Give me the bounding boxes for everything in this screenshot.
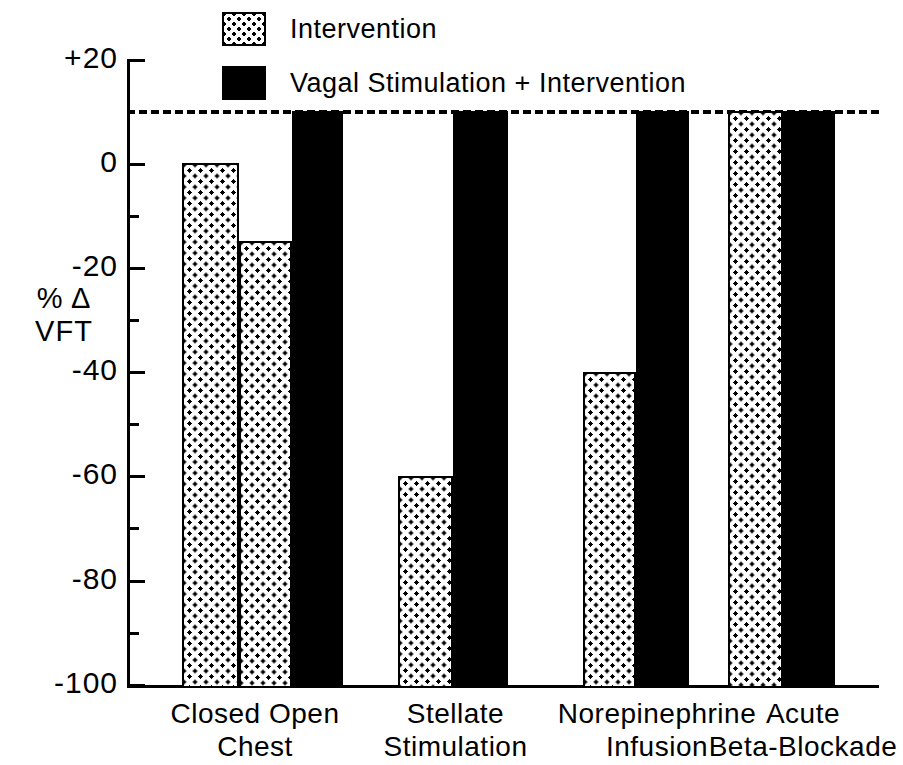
y-axis-title: % Δ VFT: [6, 282, 122, 349]
x-group-line2: Chest: [140, 730, 370, 763]
bar-vagal-open-chest: [292, 111, 343, 688]
y-label-m100: -100: [8, 668, 118, 698]
y-label-m60: -60: [8, 459, 118, 489]
y-axis-title-line2: VFT: [35, 315, 93, 347]
y-tick-m20: [127, 267, 145, 270]
bar-intervention-norepinephrine-infusion: [583, 372, 636, 688]
y-label-m20: -20: [8, 251, 118, 281]
y-minor-tick-m90: [127, 632, 139, 635]
y-tick-m80: [127, 580, 145, 583]
bar-vagal-acute-beta-blockade: [783, 111, 835, 688]
y-label-m40: -40: [8, 355, 118, 385]
y-minor-tick-m50: [127, 423, 139, 426]
x-group-line1: Acute: [766, 698, 840, 729]
bar-intervention-closed-chest: [182, 163, 239, 688]
y-tick-m60: [127, 475, 145, 478]
bar-intervention-open-chest: [239, 241, 292, 688]
x-group-label-stellate-stimulation: Stellate Stimulation: [348, 697, 563, 763]
x-group-line2: Beta-Blockade: [705, 730, 901, 763]
y-minor-tick-m70: [127, 527, 139, 530]
y-label-0: 0: [8, 147, 118, 177]
y-tick-0: [127, 163, 145, 166]
y-label-m80: -80: [8, 564, 118, 594]
plot-area: +20 0 -20 -40 -60 -80 -100 % Δ VFT Close…: [0, 0, 903, 765]
y-label-20: +20: [8, 43, 118, 73]
bar-vagal-stellate-stimulation: [453, 111, 508, 688]
chart-canvas: Intervention Vagal Stimulation + Interve…: [0, 0, 903, 765]
x-group-line2: Stimulation: [348, 730, 563, 763]
y-axis-title-line1: % Δ: [37, 282, 92, 314]
x-group-label-closed-open-chest: Closed Open Chest: [140, 697, 370, 763]
y-minor-tick-m30: [127, 319, 139, 322]
x-group-line1: Closed Open: [171, 698, 340, 729]
bar-intervention-stellate-stimulation: [398, 476, 453, 688]
y-tick-m40: [127, 371, 145, 374]
y-tick-m100: [127, 684, 145, 687]
bar-vagal-norepinephrine-infusion: [636, 111, 689, 688]
y-tick-20: [127, 59, 145, 62]
x-group-line1: Stellate: [407, 698, 504, 729]
x-group-label-acute-beta-blockade: Acute Beta-Blockade: [705, 697, 901, 763]
y-minor-tick-m10: [127, 215, 139, 218]
bar-intervention-acute-beta-blockade: [728, 111, 783, 688]
